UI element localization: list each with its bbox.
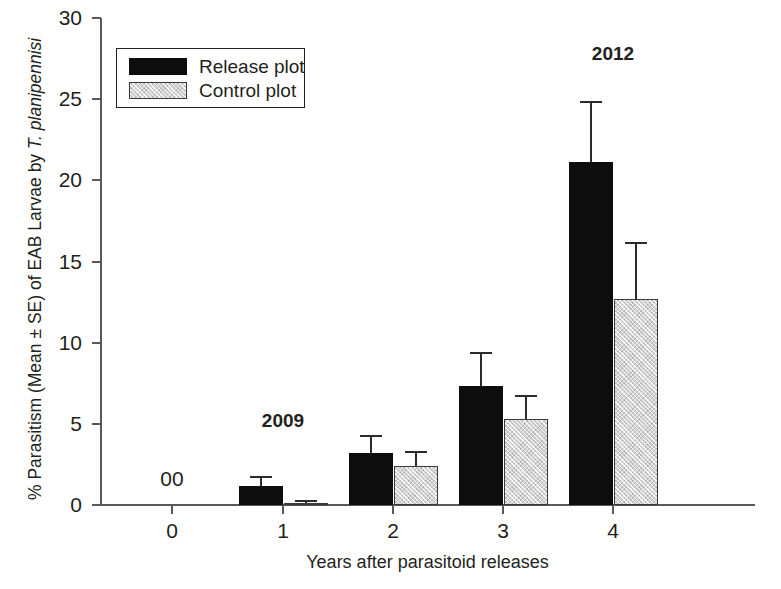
error-bar-cap-control-year-4 [625, 242, 647, 244]
control-swatch-icon [129, 82, 187, 99]
bar-release-year-2 [349, 453, 393, 505]
x-tick-4 [612, 505, 614, 514]
bar-release-year-1 [239, 486, 283, 505]
error-bar-stem-control-year-2 [415, 451, 417, 466]
legend: Release plot Control plot [116, 48, 305, 108]
x-tick-1 [282, 505, 284, 514]
error-bar-cap-control-year-1 [295, 500, 317, 502]
y-tick-5 [92, 423, 101, 425]
error-bar-stem-release-year-4 [590, 101, 592, 163]
y-tick-15 [92, 261, 101, 263]
error-bar-stem-control-year-4 [635, 242, 637, 299]
y-tick-20 [92, 179, 101, 181]
x-tick-label-1: 1 [258, 520, 308, 541]
error-bar-cap-release-year-4 [580, 101, 602, 103]
bar-control-year-2 [394, 466, 438, 505]
annotation-2012: 2012 [553, 43, 673, 65]
error-bar-stem-release-year-2 [370, 435, 372, 453]
y-axis-title: % Parasitism (Mean ± SE) of EAB Larvae b… [26, 20, 44, 500]
bar-chart: 051015202530 01234 2009201200 % Parasiti… [0, 0, 781, 589]
y-tick-0 [92, 504, 101, 506]
bar-control-year-1 [284, 503, 328, 505]
error-bar-cap-control-year-3 [515, 395, 537, 397]
x-tick-label-4: 4 [588, 520, 638, 541]
error-bar-stem-control-year-3 [525, 395, 527, 419]
bar-control-year-3 [504, 419, 548, 505]
error-bar-cap-control-year-2 [405, 451, 427, 453]
error-bar-stem-release-year-3 [480, 352, 482, 386]
x-tick-0 [171, 505, 173, 514]
release-swatch-icon [129, 58, 187, 75]
x-tick-label-2: 2 [368, 520, 418, 541]
annotation-2009: 2009 [223, 410, 343, 432]
legend-label-release: Release plot [199, 56, 305, 78]
bar-release-year-3 [459, 386, 503, 505]
x-tick-2 [392, 505, 394, 514]
y-tick-25 [92, 98, 101, 100]
x-tick-label-0: 0 [147, 520, 197, 541]
error-bar-cap-release-year-1 [250, 476, 272, 478]
bar-release-year-4 [569, 162, 613, 505]
error-bar-cap-release-year-2 [360, 435, 382, 437]
y-axis-title-main: % Parasitism (Mean ± SE) of EAB Larvae b… [25, 149, 45, 500]
x-axis-title: Years after parasitoid releases [100, 552, 755, 573]
error-bar-cap-release-year-3 [470, 352, 492, 354]
legend-label-control: Control plot [199, 80, 296, 102]
y-axis-title-species: T. planipennisi [25, 38, 45, 149]
x-tick-3 [502, 505, 504, 514]
x-tick-label-3: 3 [478, 520, 528, 541]
annotation-00: 00 [112, 467, 232, 491]
y-tick-30 [92, 17, 101, 19]
y-tick-10 [92, 342, 101, 344]
bar-control-year-4 [614, 299, 658, 505]
